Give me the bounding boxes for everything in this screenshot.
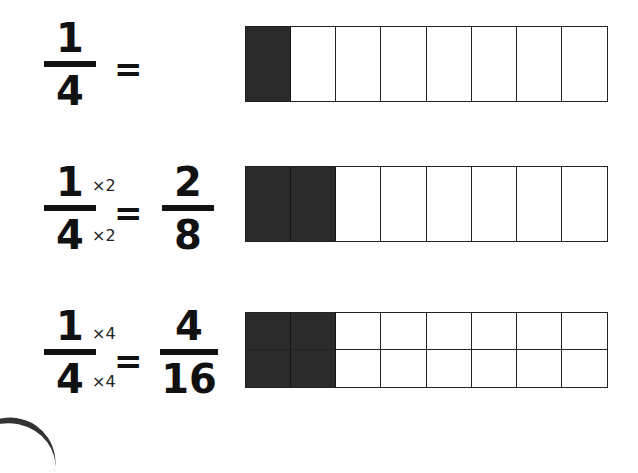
empty-cell (427, 313, 472, 350)
empty-cell (427, 167, 472, 241)
empty-cell (381, 313, 426, 350)
empty-cell (381, 27, 426, 101)
fraction-4-16: 4 16 (160, 306, 218, 399)
empty-cell (336, 313, 381, 350)
multiplier-top: ×2 (92, 178, 116, 194)
equals-sign: = (114, 52, 143, 86)
denominator: 16 (160, 359, 218, 399)
empty-cell (336, 167, 381, 241)
equals-sign: = (114, 344, 143, 378)
denominator: 4 (44, 359, 96, 399)
empty-cell (381, 167, 426, 241)
empty-cell (336, 350, 381, 387)
empty-cell (562, 313, 607, 350)
empty-cell (517, 27, 562, 101)
denominator: 4 (44, 71, 96, 111)
fraction-bar (162, 205, 214, 211)
numerator: 1 (44, 162, 96, 202)
denominator: 8 (162, 215, 214, 255)
shaded-cell (246, 27, 291, 101)
shaded-cell (246, 167, 291, 241)
fraction-1-4-row3: 1 4 (44, 306, 96, 399)
fraction-2-8: 2 8 (162, 162, 214, 255)
shaded-cell (246, 313, 291, 350)
numerator: 1 (44, 18, 96, 58)
decorative-swoosh (0, 409, 64, 473)
empty-cell (562, 167, 607, 241)
shaded-cell (291, 167, 336, 241)
empty-cell (517, 350, 562, 387)
empty-cell (427, 350, 472, 387)
multiplier-bottom: ×4 (92, 374, 116, 390)
empty-cell (472, 313, 517, 350)
fraction-bar (160, 349, 218, 355)
equals-sign: = (114, 196, 143, 230)
empty-cell (472, 27, 517, 101)
empty-cell (472, 167, 517, 241)
empty-cell (472, 350, 517, 387)
numerator: 1 (44, 306, 96, 346)
denominator: 4 (44, 215, 96, 255)
empty-cell (336, 27, 381, 101)
fraction-bar (44, 61, 96, 67)
empty-cell (427, 27, 472, 101)
fraction-model-row3 (245, 312, 608, 388)
fraction-model-row2 (245, 166, 608, 242)
empty-cell (291, 27, 336, 101)
shaded-cell (291, 350, 336, 387)
fraction-bar (44, 349, 96, 355)
fraction-model-row1 (245, 26, 608, 102)
multiplier-bottom: ×2 (92, 228, 116, 244)
empty-cell (517, 167, 562, 241)
shaded-cell (246, 350, 291, 387)
numerator: 2 (162, 162, 214, 202)
empty-cell (517, 313, 562, 350)
multiplier-top: ×4 (92, 326, 116, 342)
fraction-1-4-row2: 1 4 (44, 162, 96, 255)
empty-cell (562, 350, 607, 387)
numerator: 4 (160, 306, 218, 346)
fraction-bar (44, 205, 96, 211)
fraction-1-4-row1: 1 4 (44, 18, 96, 111)
empty-cell (562, 27, 607, 101)
empty-cell (381, 350, 426, 387)
shaded-cell (291, 313, 336, 350)
